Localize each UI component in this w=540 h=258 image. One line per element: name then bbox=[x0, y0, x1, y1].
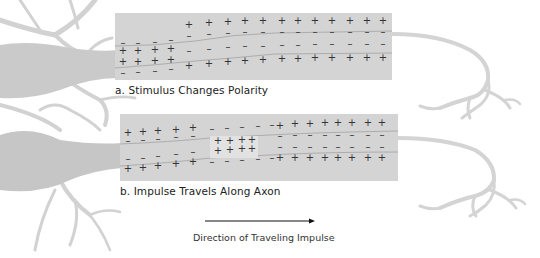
positive-charge: + bbox=[320, 118, 330, 128]
positive-charge: + bbox=[223, 57, 233, 67]
positive-charge: + bbox=[362, 16, 372, 26]
positive-charge: + bbox=[213, 146, 223, 156]
positive-charge: + bbox=[377, 153, 387, 163]
negative-charge: – bbox=[118, 68, 128, 78]
positive-charge: + bbox=[225, 145, 235, 155]
negative-charge: – bbox=[153, 134, 163, 144]
negative-charge: – bbox=[275, 131, 285, 141]
positive-charge: + bbox=[277, 54, 287, 64]
positive-charge: + bbox=[204, 18, 214, 28]
positive-charge: + bbox=[363, 118, 373, 128]
caption-panel-a: a. Stimulus Changes Polarity bbox=[115, 84, 268, 96]
positive-charge: + bbox=[171, 159, 181, 169]
negative-charge: – bbox=[204, 44, 214, 54]
positive-charge: + bbox=[345, 16, 355, 26]
negative-charge: – bbox=[305, 142, 315, 152]
positive-charge: + bbox=[277, 16, 287, 26]
negative-charge: – bbox=[363, 130, 373, 140]
negative-charge: – bbox=[277, 27, 287, 37]
positive-charge: + bbox=[293, 54, 303, 64]
negative-charge: – bbox=[207, 157, 217, 167]
positive-charge: + bbox=[362, 53, 372, 63]
caption-panel-b: b. Impulse Travels Along Axon bbox=[120, 185, 280, 197]
negative-charge: – bbox=[378, 39, 388, 49]
negative-charge: – bbox=[258, 27, 268, 37]
axon-panel-b: +++++––––––––––+++++–––––++++++++–––––++… bbox=[120, 114, 398, 181]
positive-charge: + bbox=[345, 53, 355, 63]
negative-charge: – bbox=[347, 142, 357, 152]
positive-charge: + bbox=[377, 118, 387, 128]
axon-panel-a: ––––++++++++++++––––––––––––++++++++––––… bbox=[115, 13, 392, 80]
positive-charge: + bbox=[310, 16, 320, 26]
negative-charge: – bbox=[237, 122, 247, 132]
negative-charge: – bbox=[166, 64, 176, 74]
positive-charge: + bbox=[240, 16, 250, 26]
positive-charge: + bbox=[363, 153, 373, 163]
positive-charge: + bbox=[240, 56, 250, 66]
negative-charge: – bbox=[171, 132, 181, 142]
positive-charge: + bbox=[258, 16, 268, 26]
negative-charge: – bbox=[240, 41, 250, 51]
negative-charge: – bbox=[184, 31, 194, 41]
positive-charge: + bbox=[153, 161, 163, 171]
positive-charge: + bbox=[133, 46, 143, 56]
negative-charge: – bbox=[378, 27, 388, 37]
positive-charge: + bbox=[347, 153, 357, 163]
negative-charge: – bbox=[327, 39, 337, 49]
negative-charge: – bbox=[310, 39, 320, 49]
positive-charge: + bbox=[320, 153, 330, 163]
positive-charge: + bbox=[290, 153, 300, 163]
negative-charge: – bbox=[345, 39, 355, 49]
positive-charge: + bbox=[378, 53, 388, 63]
positive-charge: + bbox=[188, 157, 198, 167]
negative-charge: – bbox=[347, 130, 357, 140]
positive-charge: + bbox=[275, 153, 285, 163]
negative-charge: – bbox=[362, 39, 372, 49]
positive-charge: + bbox=[333, 118, 343, 128]
negative-charge: – bbox=[184, 46, 194, 56]
negative-charge: – bbox=[133, 67, 143, 77]
negative-charge: – bbox=[237, 155, 247, 165]
positive-charge: + bbox=[378, 16, 388, 26]
positive-charge: + bbox=[327, 16, 337, 26]
positive-charge: + bbox=[305, 119, 315, 129]
negative-charge: – bbox=[223, 42, 233, 52]
positive-charge: + bbox=[327, 53, 337, 63]
negative-charge: – bbox=[290, 130, 300, 140]
positive-charge: + bbox=[223, 17, 233, 27]
negative-charge: – bbox=[222, 156, 232, 166]
negative-charge: – bbox=[240, 27, 250, 37]
negative-charge: – bbox=[362, 27, 372, 37]
positive-charge: + bbox=[293, 16, 303, 26]
positive-charge: + bbox=[258, 55, 268, 65]
negative-charge: – bbox=[377, 142, 387, 152]
positive-charge: + bbox=[150, 45, 160, 55]
right-arrow-icon bbox=[205, 219, 315, 224]
negative-charge: – bbox=[293, 27, 303, 37]
negative-charge: – bbox=[223, 28, 233, 38]
negative-charge: – bbox=[253, 154, 263, 164]
positive-charge: + bbox=[138, 163, 148, 173]
positive-charge: + bbox=[123, 164, 133, 174]
negative-charge: – bbox=[333, 142, 343, 152]
positive-charge: + bbox=[166, 44, 176, 54]
negative-charge: – bbox=[188, 131, 198, 141]
positive-charge: + bbox=[333, 153, 343, 163]
positive-charge: + bbox=[237, 144, 247, 154]
direction-label: Direction of Traveling Impulse bbox=[193, 232, 335, 243]
positive-charge: + bbox=[204, 59, 214, 69]
positive-charge: + bbox=[118, 46, 128, 56]
negative-charge: – bbox=[150, 66, 160, 76]
negative-charge: – bbox=[345, 27, 355, 37]
positive-charge: + bbox=[347, 118, 357, 128]
negative-charge: – bbox=[138, 135, 148, 145]
negative-charge: – bbox=[363, 142, 373, 152]
negative-charge: – bbox=[258, 41, 268, 51]
negative-charge: – bbox=[333, 130, 343, 140]
negative-charge: – bbox=[327, 27, 337, 37]
negative-charge: – bbox=[222, 123, 232, 133]
positive-charge: + bbox=[310, 53, 320, 63]
negative-charge: – bbox=[320, 142, 330, 152]
negative-charge: – bbox=[310, 27, 320, 37]
negative-charge: – bbox=[207, 124, 217, 134]
